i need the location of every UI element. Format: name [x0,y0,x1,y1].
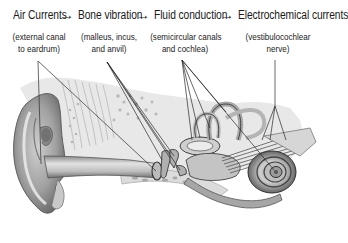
cochlea [248,151,296,193]
eardrum [152,162,162,180]
vestibule [186,153,240,180]
